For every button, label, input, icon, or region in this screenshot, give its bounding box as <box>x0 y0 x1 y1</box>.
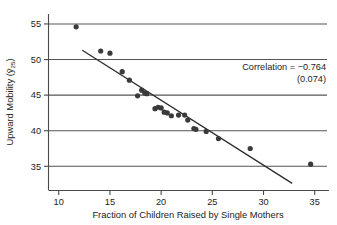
data-point <box>120 69 125 74</box>
data-point <box>107 51 112 56</box>
data-point <box>176 112 181 117</box>
y-axis-tick-label: 35 <box>31 162 41 172</box>
y-axis-tick-labels: 3540455055 <box>31 19 41 171</box>
data-point <box>308 162 313 167</box>
y-axis-tick-label: 40 <box>31 126 41 136</box>
data-point <box>74 24 79 29</box>
data-point <box>216 136 221 141</box>
y-axis-title-suffix: ) <box>4 58 15 61</box>
correlation-annotation-line2: (0.074) <box>297 74 326 84</box>
data-point <box>135 93 140 98</box>
x-axis-tick-label: 35 <box>310 197 320 207</box>
y-axis-title: Upward Mobility (ȳ25) <box>4 58 16 145</box>
x-axis-tick-labels: 101520253035 <box>54 197 320 207</box>
data-point <box>98 48 103 53</box>
y-axis-tick-label: 45 <box>31 90 41 100</box>
data-point <box>204 129 209 134</box>
y-axis-tick-label: 50 <box>31 55 41 65</box>
data-point <box>182 112 187 117</box>
x-axis-tick-label: 20 <box>156 197 166 207</box>
plot-canvas: 3540455055 101520253035 Fraction of Chil… <box>0 0 337 225</box>
data-point <box>193 127 198 132</box>
x-axis-ticks-group <box>59 191 315 196</box>
x-axis-tick-label: 10 <box>54 197 64 207</box>
scatter-plot-figure: 3540455055 101520253035 Fraction of Chil… <box>0 0 337 225</box>
x-axis-tick-label: 15 <box>105 197 115 207</box>
x-axis-tick-label: 30 <box>258 197 268 207</box>
x-axis-title: Fraction of Children Raised by Single Mo… <box>92 209 284 220</box>
y-axis-tick-label: 55 <box>31 19 41 29</box>
data-point <box>248 146 253 151</box>
data-point <box>144 91 149 96</box>
y-axis-title-prefix: Upward Mobility ( <box>4 72 15 145</box>
correlation-annotation-line1: Correlation = −0.764 <box>242 62 326 72</box>
gridlines-group <box>49 24 328 166</box>
data-point <box>185 117 190 122</box>
y-axis-ticks-group <box>44 24 49 166</box>
data-point <box>169 113 174 118</box>
x-axis-tick-label: 25 <box>207 197 217 207</box>
data-point <box>127 78 132 83</box>
data-point <box>159 105 164 110</box>
